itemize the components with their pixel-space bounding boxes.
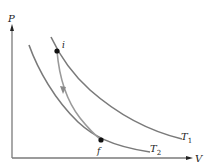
point-final-label: f — [96, 146, 102, 156]
p-axis-arrow-icon — [10, 24, 14, 31]
point-final — [98, 137, 103, 142]
point-initial — [54, 48, 59, 53]
point-initial-label: i — [62, 40, 65, 50]
isotherm-t1-label: T1 — [181, 131, 192, 145]
adiabatic-process-path — [57, 51, 101, 140]
isotherm-t2-label: T2 — [150, 143, 161, 157]
isotherm-t1-curve — [51, 37, 182, 139]
p-axis-label: P — [7, 13, 15, 24]
v-axis-label: V — [195, 153, 204, 164]
pv-diagram: P V T1 T2 i f — [0, 0, 206, 166]
v-axis-arrow-icon — [186, 156, 193, 160]
axes: P V — [7, 13, 204, 164]
isotherm-t2-curve — [29, 45, 150, 152]
